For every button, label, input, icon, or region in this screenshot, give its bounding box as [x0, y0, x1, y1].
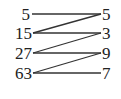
mapping-diagram: 5 15 27 63 5 3 9 7: [0, 0, 121, 99]
right-value: 5: [102, 5, 111, 24]
line-15-5: [33, 14, 101, 33]
connection-lines: [32, 14, 101, 73]
left-value: 27: [15, 44, 33, 63]
left-column: 5 15 27 63: [15, 5, 33, 83]
line-27-3: [33, 33, 101, 53]
left-value: 15: [15, 24, 32, 43]
right-column: 5 3 9 7: [102, 5, 111, 83]
right-value: 3: [102, 24, 111, 43]
right-value: 7: [102, 64, 111, 83]
right-value: 9: [102, 44, 111, 63]
line-63-9: [33, 53, 101, 73]
left-value: 5: [22, 5, 31, 24]
left-value: 63: [15, 64, 32, 83]
